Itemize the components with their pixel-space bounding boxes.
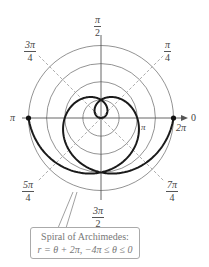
label-pi-over-4: π 4 xyxy=(164,40,171,63)
point-right xyxy=(171,115,176,120)
callout-equation: r = θ + 2π, −4π ≤ θ ≤ 0 xyxy=(34,243,136,256)
label-5pi-over-4: 5π 4 xyxy=(22,180,34,203)
label-pi-axis: π xyxy=(141,122,146,132)
callout-leader xyxy=(58,192,73,228)
label-7pi-over-4: 7π 4 xyxy=(166,180,178,203)
point-left xyxy=(26,115,31,120)
label-3pi-over-4: 3π 4 xyxy=(24,40,36,63)
label-pi-over-2: π 2 xyxy=(94,15,101,38)
label-two-pi: 2π xyxy=(176,123,186,133)
label-pi-left: π xyxy=(10,113,15,123)
label-3pi-over-2: 3π 2 xyxy=(92,206,104,229)
callout-leader-2 xyxy=(66,192,77,228)
callout-box: Spiral of Archimedes: r = θ + 2π, −4π ≤ … xyxy=(30,227,140,259)
label-zero: 0 xyxy=(191,113,196,123)
arrow-icon xyxy=(181,115,188,121)
callout-title: Spiral of Archimedes: xyxy=(34,230,136,243)
